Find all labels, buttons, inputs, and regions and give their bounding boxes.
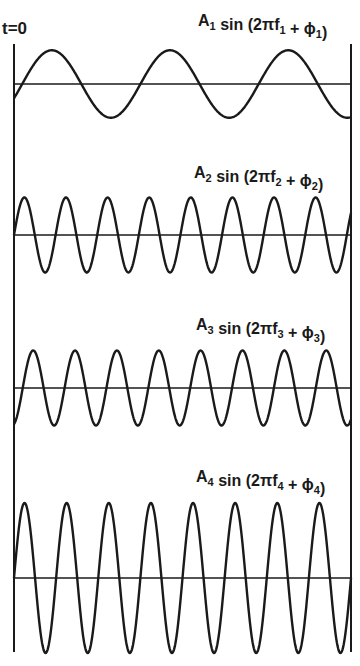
component-3: A3 sin (2πf3 + ϕ3) xyxy=(14,316,351,426)
component-4: A4 sin (2πf4 + ϕ4) xyxy=(14,468,351,653)
formula-label-4: A4 sin (2πf4 + ϕ4) xyxy=(196,468,325,497)
formula-label-3: A3 sin (2πf3 + ϕ3) xyxy=(196,316,325,345)
component-1: A1 sin (2πf1 + ϕ1) xyxy=(14,12,351,118)
formula-label-1: A1 sin (2πf1 + ϕ1) xyxy=(198,12,327,41)
formula-label-2: A2 sin (2πf2 + ϕ2) xyxy=(194,164,323,193)
t-zero-label: t=0 xyxy=(2,19,27,38)
component-2: A2 sin (2πf2 + ϕ2) xyxy=(14,164,351,273)
sine-components-diagram: t=0 A1 sin (2πf1 + ϕ1)A2 sin (2πf2 + ϕ2)… xyxy=(0,0,360,666)
